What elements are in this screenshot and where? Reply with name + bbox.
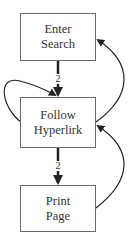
node-label-line2: Hyperlirk <box>34 123 83 138</box>
node-label-line1: Follow <box>40 108 75 123</box>
edge-enter-search-to-follow-hyperlink: 2 <box>54 61 62 95</box>
node-enter-search: Enter Search <box>20 13 96 61</box>
edge-print-page-to-follow-hyperlink <box>96 126 124 208</box>
node-label-line1: Print <box>46 194 70 209</box>
edge-follow-hyperlink-to-enter-search <box>96 40 124 122</box>
edge-label: 2 <box>56 73 61 84</box>
edge-follow-hyperlink-to-print-page: 2 <box>54 148 62 183</box>
node-label-line2: Search <box>41 37 75 52</box>
edge-label: 2 <box>56 160 61 171</box>
flow-diagram: 2 2 Enter Search Follow Hyperlirk Print … <box>0 0 134 240</box>
node-follow-hyperlink: Follow Hyperlirk <box>20 97 96 148</box>
node-label-line1: Enter <box>44 22 71 37</box>
node-print-page: Print Page <box>20 185 96 232</box>
node-label-line2: Page <box>46 209 70 224</box>
